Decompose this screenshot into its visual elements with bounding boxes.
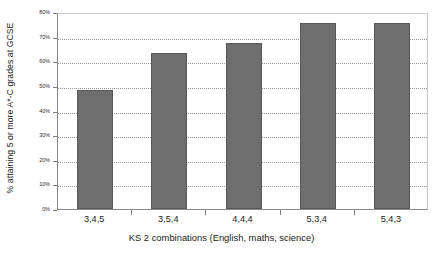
- x-axis-category-label: 3,4,5: [57, 214, 131, 224]
- y-axis-tick-mark: [53, 210, 57, 211]
- bar: [77, 90, 113, 209]
- x-axis-category-label: 3,5,4: [131, 214, 205, 224]
- y-axis-tick-label: 50%: [39, 83, 50, 90]
- bar: [374, 23, 410, 209]
- x-axis-category-label: 5,3,4: [280, 214, 354, 224]
- bar: [300, 23, 336, 209]
- y-axis-tick-label: 60%: [39, 58, 50, 65]
- bar: [151, 53, 187, 209]
- y-axis-tick-label: 70%: [39, 34, 50, 41]
- bar-chart: % attaining 5 or more A*-C grades at GCS…: [0, 0, 443, 254]
- y-axis-title: % attaining 5 or more A*-C grades at GCS…: [0, 0, 20, 216]
- y-axis-tick-label: 20%: [39, 157, 50, 164]
- x-axis-category-label: 5,4,3: [354, 214, 428, 224]
- x-axis-title: KS 2 combinations (English, maths, scien…: [0, 232, 443, 243]
- x-axis-title-text: KS 2 combinations (English, maths, scien…: [129, 232, 315, 243]
- y-axis-tick-label: 0%: [42, 206, 50, 213]
- x-axis-category-label: 4,4,4: [205, 214, 279, 224]
- gridline: [58, 39, 427, 40]
- y-axis-tick-label: 10%: [39, 181, 50, 188]
- y-axis-title-text: % attaining 5 or more A*-C grades at GCS…: [5, 23, 15, 194]
- y-axis-tick-label: 30%: [39, 132, 50, 139]
- y-axis-tick-label: 80%: [39, 9, 50, 16]
- bar: [226, 43, 262, 209]
- plot-area: [57, 13, 428, 210]
- y-axis-tick-label: 40%: [39, 108, 50, 115]
